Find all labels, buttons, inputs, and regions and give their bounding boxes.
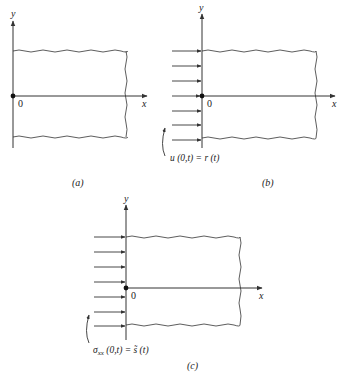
- y-axis-label: y: [123, 193, 129, 204]
- origin-dot: [200, 94, 205, 99]
- panel-a: y x 0 (a): [10, 8, 147, 189]
- wavy-top-boundary: [13, 50, 128, 52]
- wavy-bottom-boundary: [202, 137, 316, 139]
- origin-dot: [124, 286, 129, 291]
- boundary-condition-rest: (0,t) = s̃ (t): [104, 345, 149, 356]
- wavy-bottom-boundary: [126, 324, 240, 326]
- panel-c: y x 0 σxx (0,t) = s̃ (t) (c): [87, 193, 265, 372]
- boundary-condition-label: σxx (0,t) = s̃ (t): [93, 345, 149, 357]
- caption-a: (a): [72, 177, 84, 189]
- boundary-load-arrows: [172, 51, 201, 140]
- x-axis-label: x: [141, 98, 147, 109]
- origin-label: 0: [18, 98, 23, 109]
- origin-dot: [11, 94, 16, 99]
- caption-c: (c): [187, 360, 199, 372]
- y-axis-label: y: [198, 2, 204, 13]
- figure-canvas: y x 0 (a) y x 0 u (0,t) = r (t) (b): [0, 0, 344, 377]
- wavy-right-boundary: [239, 237, 241, 325]
- wavy-bottom-boundary: [13, 136, 128, 138]
- curved-pointer-arrow: [163, 128, 166, 156]
- wavy-top-boundary: [126, 236, 240, 238]
- panel-b: y x 0 u (0,t) = r (t) (b): [163, 2, 338, 189]
- wavy-right-boundary: [315, 51, 317, 138]
- x-axis-label: x: [258, 290, 264, 301]
- caption-b: (b): [262, 177, 274, 189]
- y-axis-label: y: [10, 8, 16, 19]
- x-axis-label: x: [331, 98, 337, 109]
- boundary-traction-arrows: [94, 237, 125, 326]
- wavy-right-boundary: [125, 51, 127, 137]
- boundary-condition-label: u (0,t) = r (t): [170, 153, 219, 164]
- curved-pointer-arrow: [87, 315, 90, 343]
- wavy-top-boundary: [202, 50, 316, 52]
- origin-label: 0: [207, 98, 212, 109]
- origin-label: 0: [131, 290, 136, 301]
